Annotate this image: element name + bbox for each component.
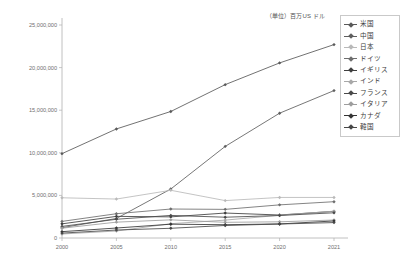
legend-item-日本[interactable]: 日本 <box>344 42 397 53</box>
data-point-marker <box>224 83 227 86</box>
x-tick-label: 2005 <box>110 244 122 250</box>
y-tick-label: 5,000,000 <box>32 192 57 198</box>
data-point-marker <box>60 196 63 199</box>
data-point-marker <box>332 43 335 46</box>
legend-marker-icon <box>344 124 357 131</box>
data-point-marker <box>115 127 118 130</box>
data-point-marker <box>278 214 281 217</box>
series-米国 <box>60 43 335 155</box>
data-point-marker <box>60 227 63 230</box>
data-point-marker <box>278 196 281 199</box>
y-tick-label: 25,000,000 <box>29 22 57 28</box>
axis-layer <box>59 18 348 241</box>
series-中国 <box>60 89 335 229</box>
legend-item-米国[interactable]: 米国 <box>344 19 397 30</box>
y-axis-tick-labels: 05,000,00010,000,00015,000,00020,000,000… <box>29 22 57 241</box>
series-line <box>62 190 334 200</box>
legend-item-インド[interactable]: インド <box>344 76 397 87</box>
data-point-marker <box>115 220 118 223</box>
data-point-marker <box>169 223 172 226</box>
legend-marker-icon <box>344 112 357 119</box>
series-line <box>62 91 334 228</box>
legend-label: インド <box>360 78 381 85</box>
x-tick-label: 2010 <box>165 244 177 250</box>
series-layer <box>60 43 335 236</box>
legend-marker-icon <box>344 101 357 108</box>
data-point-marker <box>115 197 118 200</box>
legend-marker-icon <box>344 21 357 28</box>
legend-marker-icon <box>344 55 357 62</box>
series-日本 <box>60 189 335 203</box>
legend-item-ドイツ[interactable]: ドイツ <box>344 53 397 64</box>
y-tick-label: 10,000,000 <box>29 150 57 156</box>
y-tick-label: 15,000,000 <box>29 107 57 113</box>
legend-marker-icon <box>344 78 357 85</box>
series-ドイツ <box>60 200 335 223</box>
data-point-marker <box>224 199 227 202</box>
data-point-marker <box>332 196 335 199</box>
legend-item-韓国[interactable]: 韓国 <box>344 122 397 133</box>
legend-item-カナダ[interactable]: カナダ <box>344 110 397 121</box>
data-point-marker <box>332 200 335 203</box>
data-point-marker <box>169 110 172 113</box>
legend-label: 韓国 <box>360 124 374 131</box>
data-point-marker <box>278 61 281 64</box>
legend-label: フランス <box>360 90 388 97</box>
x-axis-tick-labels: 200020052010201520202021 <box>56 244 340 250</box>
legend-marker-icon <box>344 44 357 51</box>
data-point-marker <box>224 216 227 219</box>
legend-marker-icon <box>344 90 357 97</box>
chart-container: （単位）百万US ドル 05,000,00010,000,00015,000,0… <box>0 0 407 274</box>
legend-label: ドイツ <box>360 56 381 63</box>
legend-label: イタリア <box>360 101 388 108</box>
chart-legend[interactable]: 米国中国日本ドイツイギリスインドフランスイタリアカナダ韓国 <box>340 15 400 137</box>
legend-item-イギリス[interactable]: イギリス <box>344 65 397 76</box>
y-tick-label: 20,000,000 <box>29 65 57 71</box>
legend-item-中国[interactable]: 中国 <box>344 30 397 41</box>
series-インド <box>60 209 335 235</box>
legend-label: 中国 <box>360 33 374 40</box>
data-point-marker <box>332 89 335 92</box>
legend-item-フランス[interactable]: フランス <box>344 87 397 98</box>
x-tick-label: 2020 <box>273 244 285 250</box>
x-tick-label: 2021 <box>328 244 340 250</box>
data-point-marker <box>169 227 172 230</box>
legend-marker-icon <box>344 33 357 40</box>
legend-label: イギリス <box>360 67 388 74</box>
y-tick-label: 0 <box>54 235 57 241</box>
legend-label: 米国 <box>360 21 374 28</box>
legend-marker-icon <box>344 67 357 74</box>
series-line <box>62 45 334 154</box>
data-point-marker <box>224 211 227 214</box>
data-point-marker <box>169 218 172 221</box>
data-point-marker <box>278 203 281 206</box>
series-line <box>62 221 334 232</box>
legend-label: 日本 <box>360 44 374 51</box>
x-tick-label: 2015 <box>219 244 231 250</box>
legend-label: カナダ <box>360 113 381 120</box>
x-tick-label: 2000 <box>56 244 68 250</box>
data-point-marker <box>278 222 281 225</box>
data-point-marker <box>224 208 227 211</box>
data-point-marker <box>169 207 172 210</box>
legend-item-イタリア[interactable]: イタリア <box>344 99 397 110</box>
